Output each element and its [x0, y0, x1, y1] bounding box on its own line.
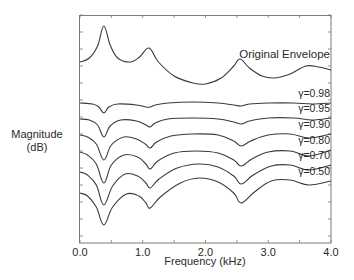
- original-envelope-label: Original Envelope: [239, 48, 330, 60]
- gamma-curve: [80, 164, 331, 205]
- chart: 0.01.02.03.04.0 Original Envelopeγ=0.98γ…: [0, 0, 354, 280]
- gamma-label: γ=0.70: [298, 149, 330, 161]
- y-axis-label-line1: Magnitude: [11, 128, 62, 140]
- gamma-label: γ=0.98: [298, 87, 330, 99]
- series-labels: Original Envelopeγ=0.98γ=0.95γ=0.90γ=0.8…: [239, 48, 330, 177]
- y-axis-label-line2: (dB): [27, 141, 48, 153]
- gamma-label: γ=0.50: [298, 165, 330, 177]
- gamma-label: γ=0.80: [298, 134, 330, 146]
- x-tick-label: 4.0: [323, 246, 338, 258]
- x-tick-label: 0.0: [72, 246, 87, 258]
- x-tick-label: 1.0: [135, 246, 150, 258]
- gamma-label: γ=0.95: [298, 102, 330, 114]
- gamma-label: γ=0.90: [298, 118, 330, 130]
- gamma-curve: [80, 178, 331, 225]
- x-axis-label: Frequency (kHz): [164, 255, 245, 267]
- gamma-curve: [80, 102, 331, 113]
- x-tick-label: 3.0: [261, 246, 276, 258]
- gamma-curve: [80, 134, 331, 160]
